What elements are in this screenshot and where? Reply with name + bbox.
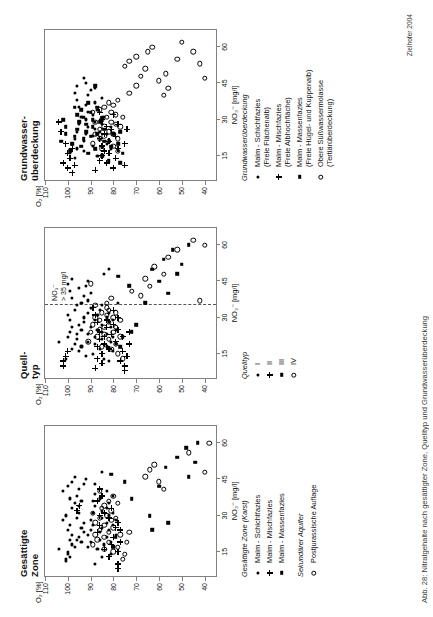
plot-area-gesaettigte-zone: 40506070809010011015304560NO₃⁻ [mg/l] (44, 425, 217, 577)
data-point (69, 497, 72, 500)
data-point (145, 49, 150, 54)
data-point (100, 470, 103, 473)
x-axis-tick (216, 478, 220, 479)
data-point (78, 323, 81, 326)
data-point (73, 545, 76, 548)
data-point (120, 114, 125, 119)
data-point (84, 123, 88, 127)
data-point (102, 523, 107, 528)
data-point (100, 154, 104, 158)
data-point (69, 289, 72, 292)
data-point (185, 446, 189, 450)
data-point (150, 528, 154, 532)
y-axis-tick-label: 90 (87, 187, 94, 195)
figure-caption: Abb. 28: Nitratgehalte nach gesättigter … (420, 13, 429, 603)
y-axis-tick: 110 (45, 576, 46, 581)
x-axis-tick-label: 15 (221, 152, 228, 160)
data-point (69, 555, 72, 558)
data-point (152, 462, 157, 467)
y-axis-tick-label: 60 (156, 385, 163, 393)
x-axis-tick (216, 515, 220, 516)
legend-item[interactable]: Malm - Massenfazies (277, 401, 286, 577)
legend-symbol-cell (277, 563, 286, 577)
data-point (66, 485, 69, 488)
data-point (196, 441, 200, 445)
data-point (123, 480, 127, 484)
data-point (73, 91, 76, 94)
data-point (64, 514, 67, 517)
legend-item-sublabel: (Tertiärüberdeckung) (325, 5, 334, 167)
data-point (124, 126, 130, 132)
data-point (63, 141, 69, 147)
legend-symbol-plus-icon (267, 372, 273, 378)
data-point (90, 510, 95, 515)
x-axis-label: NO₃⁻ [mg/l] (230, 86, 239, 125)
legend-item[interactable]: Malm - Mischfazies (265, 401, 274, 577)
data-point (75, 338, 78, 341)
data-point (115, 549, 121, 555)
legend-group-title: Gesättigte Zone (Karst) (240, 401, 249, 577)
data-point (124, 539, 129, 544)
legend-item[interactable]: Obere Süßwassermolasse(Tertiärüberdeckun… (316, 5, 334, 181)
legend-item[interactable]: II (265, 203, 274, 379)
panel-title-gesaettigte-zone: Gesättigte Zone (18, 417, 40, 577)
data-point (73, 157, 76, 160)
data-point (80, 541, 83, 544)
data-point (190, 237, 195, 242)
data-point (82, 521, 85, 524)
data-point (197, 61, 202, 66)
x-axis-label: NO₃⁻ [mg/l] (230, 284, 239, 323)
data-point (75, 113, 79, 117)
legend-item[interactable]: IV (289, 203, 298, 379)
y-axis-tick: 90 (91, 576, 92, 581)
data-point (148, 514, 152, 518)
data-point (80, 144, 84, 148)
legend-symbol-dot-icon (256, 373, 259, 376)
data-point (107, 159, 111, 163)
data-point (95, 537, 100, 542)
y-axis-tick: 110 (45, 378, 46, 383)
x-axis-label: NO₃⁻ [mg/l] (230, 482, 239, 521)
legend-quelltyp: QuelltypIIIIIIIV (240, 203, 301, 379)
data-point (90, 110, 95, 115)
data-point (69, 170, 75, 176)
data-point (78, 287, 81, 290)
data-point (115, 136, 120, 141)
data-point (111, 329, 116, 334)
data-point (99, 344, 104, 349)
data-point (127, 530, 132, 535)
data-point (180, 263, 184, 267)
data-point (59, 140, 63, 144)
panel-grundwasserueberdeckung: Grundwasser- überdeckung O₂ [%] 40506070… (18, 24, 390, 207)
legend-item[interactable]: III (277, 203, 286, 379)
y-axis-tick-label: 50 (178, 187, 185, 195)
legend-item[interactable]: Malm - Schichtfazies (253, 401, 262, 577)
data-point (89, 89, 92, 92)
data-point (69, 331, 72, 334)
data-point (166, 521, 170, 525)
data-point (133, 83, 138, 88)
y-axis-tick-label: 70 (133, 385, 140, 393)
data-point (82, 531, 85, 534)
legend-item-label: I (253, 203, 262, 365)
legend-symbol-cell (253, 563, 262, 577)
legend-item[interactable]: Malm - Mischfazies(Freie Albhochfläche) (274, 5, 292, 181)
y-axis-tick: 60 (159, 180, 160, 185)
data-point (99, 360, 105, 366)
panel-title-line1: Quell- (18, 351, 29, 379)
data-point (64, 132, 68, 136)
legend-symbol-cell (265, 365, 274, 379)
data-point (164, 465, 168, 469)
data-point (77, 120, 81, 124)
x-axis-tick (216, 280, 220, 281)
data-point (87, 545, 90, 548)
data-point (144, 301, 148, 305)
legend-item[interactable]: Postjurassische Auflage (309, 401, 318, 577)
legend-item[interactable]: Malm - Massenfazies(Freie Hügel- und Kup… (295, 5, 313, 181)
legend-symbol-dot-icon (256, 571, 259, 574)
data-point (71, 277, 74, 280)
data-point (130, 497, 134, 501)
legend-item[interactable]: I (253, 203, 262, 379)
data-point (71, 347, 74, 350)
legend-item[interactable]: Malm - Schichtfazies(Freie Flächenalb) (253, 5, 271, 181)
